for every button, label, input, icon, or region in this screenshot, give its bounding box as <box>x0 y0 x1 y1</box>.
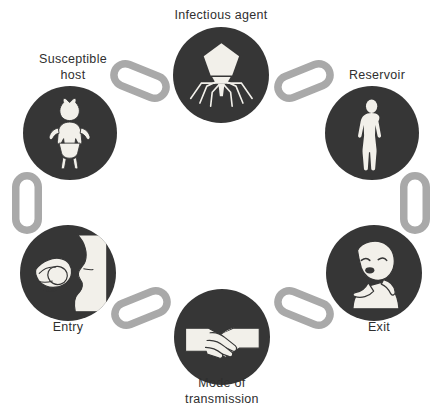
node-exit[interactable] <box>326 225 422 321</box>
node-label-exit: Exit <box>309 320 443 336</box>
hand-food-to-mouth-icon <box>30 235 107 312</box>
node-label-entry: Entry <box>0 320 138 336</box>
chain-entry-to-susceptible <box>12 172 42 234</box>
coughing-person-icon <box>336 235 413 312</box>
chain-of-infection-diagram: Infectious agent Reservoir Exit Mode of … <box>0 0 443 420</box>
node-susceptible-host[interactable] <box>23 86 117 180</box>
node-entry[interactable] <box>20 225 116 321</box>
node-mode-of-transmission[interactable] <box>174 289 270 385</box>
infant-figure-icon <box>32 95 107 170</box>
node-label-susceptible-host: Susceptible host <box>3 52 143 83</box>
node-label-mode-of-transmission: Mode of transmission <box>152 376 292 407</box>
node-label-infectious-agent: Infectious agent <box>151 8 291 24</box>
handshake-icon <box>184 299 261 376</box>
standing-human-figure-icon-wrap <box>334 95 409 170</box>
infant-figure-icon-wrap <box>32 95 107 170</box>
standing-human-figure-icon <box>334 95 409 170</box>
bacteriophage-icon <box>183 37 260 114</box>
node-reservoir[interactable] <box>325 86 419 180</box>
node-label-reservoir: Reservoir <box>307 68 443 84</box>
coughing-person-icon-wrap <box>336 235 413 312</box>
handshake-icon-wrap <box>184 299 261 376</box>
chain-reservoir-to-exit <box>400 172 430 234</box>
bacteriophage-icon-wrap <box>183 37 260 114</box>
node-infectious-agent[interactable] <box>173 27 269 123</box>
hand-food-to-mouth-icon-wrap <box>30 235 107 312</box>
